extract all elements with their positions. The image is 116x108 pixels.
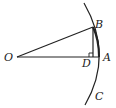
label-A: A — [102, 51, 111, 64]
geometry-diagram: O B A D C — [0, 0, 116, 108]
label-D: D — [81, 57, 91, 70]
label-C: C — [95, 90, 104, 103]
segment-OB — [17, 27, 93, 57]
label-B: B — [94, 18, 103, 31]
label-O: O — [4, 51, 13, 64]
